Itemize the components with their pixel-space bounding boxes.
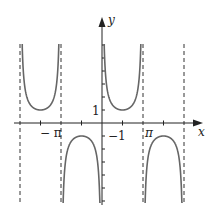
csc-branch — [22, 44, 59, 110]
y-tick-label-1: 1 — [92, 104, 100, 118]
x-tick-label-pi: π — [144, 126, 154, 140]
csc-branch — [104, 44, 141, 110]
csc-branch — [145, 136, 182, 203]
cosecant-graph: y x − π π 1 −1 — [0, 0, 214, 214]
y-axis-label: y — [107, 13, 115, 27]
y-tick-label-neg-1: −1 — [108, 129, 126, 143]
y-axis-arrow-icon — [99, 17, 106, 27]
axes — [14, 17, 203, 205]
x-axis-label: x — [198, 125, 205, 139]
csc-branch — [63, 136, 100, 203]
x-tick-label-neg-pi: − π — [40, 126, 62, 140]
